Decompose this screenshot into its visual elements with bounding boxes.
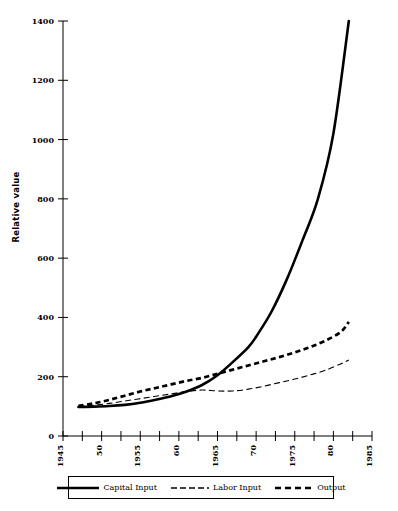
legend-item-capital-input: Capital Input [56, 483, 156, 493]
y-tick-label: 0 [48, 431, 54, 441]
x-tick-label: 50 [94, 445, 104, 457]
y-tick-label: 600 [37, 253, 54, 263]
legend-item-labor-input: Labor Input [170, 483, 261, 493]
x-tick-label: 70 [248, 445, 258, 457]
x-tick-label: 1945 [55, 445, 65, 467]
legend-label-capital-input: Capital Input [103, 483, 156, 492]
line-chart-plot: 0200400600800100012001400 19455019556019… [0, 0, 398, 511]
x-tick-label: 80 [325, 445, 335, 457]
y-tick-label: 1200 [32, 75, 55, 85]
x-tick-label: 1985 [364, 445, 374, 467]
y-tick-label: 200 [37, 372, 54, 382]
series-line-labor-input [78, 360, 348, 406]
legend-label-labor-input: Labor Input [213, 483, 261, 492]
x-tick-label: 1965 [210, 445, 220, 467]
series-line-output [78, 322, 348, 406]
legend-item-output: Output [274, 483, 345, 493]
y-tick-label: 1000 [32, 135, 55, 145]
legend-swatch-dashed-thin [170, 483, 210, 493]
x-tick-label: 60 [171, 445, 181, 457]
legend-swatch-dashed-thick [274, 483, 314, 493]
legend-swatch-solid-thick [56, 483, 100, 493]
y-tick-label: 1400 [32, 16, 55, 26]
legend-label-output: Output [317, 483, 345, 492]
y-tick-label: 400 [37, 312, 54, 322]
chart-figure: Relative value 0200400600800100012001400… [0, 0, 398, 511]
x-tick-label: 1955 [132, 445, 142, 467]
x-tick-label: 1975 [287, 445, 297, 467]
chart-legend: Capital Input Labor Input Output [68, 476, 334, 499]
y-tick-label: 800 [37, 194, 54, 204]
